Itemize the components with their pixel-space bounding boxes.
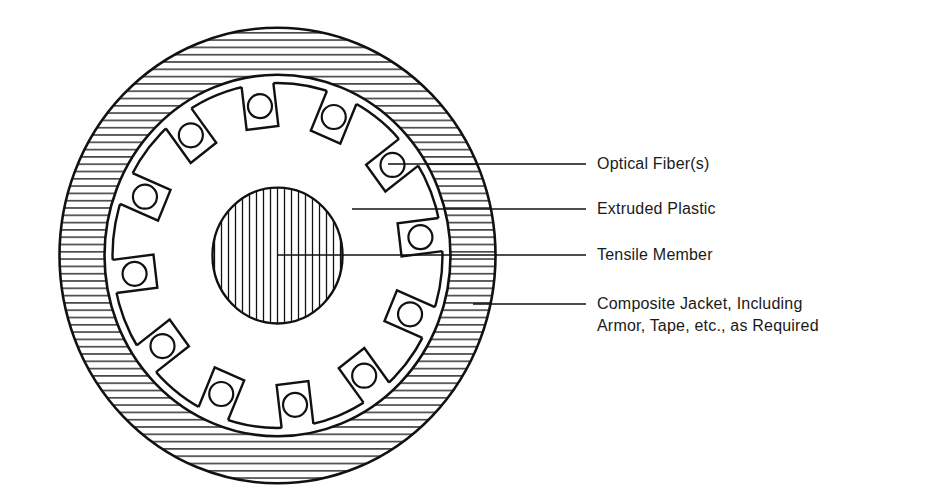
optical-fiber-icon <box>381 153 405 177</box>
optical-fiber-icon <box>150 334 174 358</box>
label-composite-jacket-line2: Armor, Tape, etc., as Required <box>597 315 819 337</box>
label-tensile-member: Tensile Member <box>597 244 713 266</box>
label-optical-fiber: Optical Fiber(s) <box>597 153 710 175</box>
optical-fiber-icon <box>209 382 233 406</box>
label-extruded-plastic: Extruded Plastic <box>597 198 716 220</box>
optical-fiber-icon <box>398 302 422 326</box>
optical-fiber-icon <box>248 94 272 118</box>
label-composite-jacket: Composite Jacket, Including Armor, Tape,… <box>597 293 819 337</box>
optical-fiber-icon <box>322 105 346 129</box>
label-composite-jacket-line1: Composite Jacket, Including <box>597 293 819 315</box>
optical-fiber-icon <box>133 185 157 209</box>
optical-fiber-icon <box>352 364 376 388</box>
optical-fiber-icon <box>123 262 147 286</box>
optical-fiber-icon <box>283 393 307 417</box>
optical-fiber-icon <box>408 225 432 249</box>
cable-cross-section-diagram <box>0 0 937 500</box>
optical-fiber-icon <box>179 123 203 147</box>
